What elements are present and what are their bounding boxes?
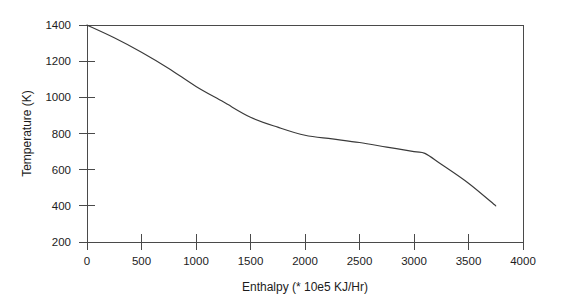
- x-tick-label: 3500: [456, 255, 482, 267]
- chart-figure: 1400 1200 1000 800 600 400 200 0 500 100…: [0, 0, 562, 305]
- y-tick-label: 200: [52, 236, 71, 248]
- y-tick-label: 400: [52, 200, 71, 212]
- y-tick-label: 1400: [45, 19, 71, 31]
- data-series-line: [87, 25, 496, 206]
- line-chart: 1400 1200 1000 800 600 400 200 0 500 100…: [0, 0, 562, 305]
- x-tick-label: 500: [132, 255, 151, 267]
- x-axis-title: Enthalpy (* 10e5 KJ/Hr): [242, 280, 368, 294]
- x-tick-label: 2000: [292, 255, 318, 267]
- y-axis-title: Temperature (K): [20, 90, 34, 177]
- y-axis-tick-labels: 1400 1200 1000 800 600 400 200: [45, 19, 71, 248]
- x-tick-label: 2500: [347, 255, 373, 267]
- y-tick-label: 1000: [45, 91, 71, 103]
- plot-frame: [87, 25, 523, 242]
- x-tick-label: 4000: [510, 255, 536, 267]
- y-tick-label: 800: [52, 128, 71, 140]
- x-tick-label: 1000: [183, 255, 209, 267]
- x-tick-label: 3000: [401, 255, 427, 267]
- y-tick-label: 600: [52, 164, 71, 176]
- x-axis-tick-labels: 0 500 1000 1500 2000 2500 3000 3500 4000: [84, 255, 536, 267]
- x-tick-label: 1500: [238, 255, 264, 267]
- x-tick-label: 0: [84, 255, 90, 267]
- y-tick-label: 1200: [45, 55, 71, 67]
